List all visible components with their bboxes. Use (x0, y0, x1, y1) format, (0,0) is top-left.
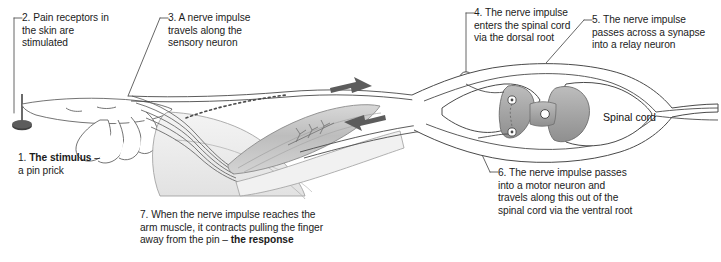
callout-5-synapse-relay: 5. The nerve impulse passes across a syn… (592, 14, 718, 52)
callout-2-pain-receptors: 2. Pain receptors in the skin are stimul… (22, 12, 157, 50)
spinal-cord-label: Spinal cord (603, 111, 656, 123)
callout-4-dorsal-root: 4. The nerve impulse enters the spinal c… (474, 7, 594, 45)
callout-1-stimulus: 1. The stimulus –a pin prick (18, 152, 138, 177)
callout-7-line1: 7. When the nerve impulse reaches the (140, 209, 315, 220)
callout-7-line2: arm muscle, it contracts pulling the fin… (140, 222, 323, 233)
callout-1-line2: a pin prick (18, 165, 64, 176)
callout-7-response: 7. When the nerve impulse reaches thearm… (140, 209, 405, 247)
callout-1-number: 1. (18, 152, 29, 163)
callout-1-bold: The stimulus (29, 152, 91, 163)
callout-6-motor-neuron: 6. The nerve impulse passes into a motor… (498, 167, 688, 217)
callout-3-sensory-neuron: 3. A nerve impulse travels along the sen… (168, 12, 298, 50)
callout-7-bold: the response (231, 234, 294, 245)
callout-7-line3-prefix: away from the pin – (140, 234, 231, 245)
spinal-cord-section (412, 64, 718, 163)
reflex-arc-diagram: 1. The stimulus –a pin prick 2. Pain rec… (0, 0, 721, 262)
callout-1-suffix: – (91, 152, 99, 163)
